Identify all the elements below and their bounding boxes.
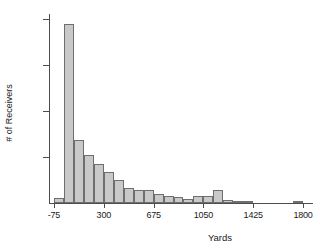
- histogram-bar: [183, 199, 193, 203]
- x-tick-mark: [154, 203, 155, 208]
- histogram-bar: [104, 172, 114, 203]
- x-tick-mark: [104, 203, 105, 208]
- histogram-bar: [64, 24, 74, 203]
- histogram-bar: [114, 180, 124, 203]
- histogram-bar: [144, 190, 154, 203]
- x-tick-mark: [253, 203, 254, 208]
- x-axis-line: [49, 203, 313, 204]
- x-tick-mark: [54, 203, 55, 208]
- histogram-figure: 50100150200 # of Receivers -753006751050…: [0, 0, 320, 252]
- x-tick-mark: [303, 203, 304, 208]
- x-axis-title: Yards: [0, 232, 320, 243]
- x-axis-title-text: Yards: [208, 232, 232, 243]
- histogram-bar: [154, 194, 164, 203]
- x-tick-label: 1050: [194, 210, 213, 220]
- histogram-bar: [84, 155, 94, 203]
- histogram-bar: [203, 196, 213, 203]
- x-tick-label: 1800: [293, 210, 312, 220]
- histogram-bar: [213, 190, 223, 203]
- x-tick-mark: [203, 203, 204, 208]
- x-tick-label: 300: [97, 210, 111, 220]
- plot-area: [49, 14, 313, 203]
- histogram-bar: [164, 196, 174, 203]
- x-tick-label: 675: [146, 210, 160, 220]
- histogram-bar: [54, 198, 64, 203]
- histogram-bar: [193, 196, 203, 203]
- x-tick-label: 1425: [244, 210, 263, 220]
- y-axis-title: # of Receivers: [4, 68, 14, 158]
- histogram-bar: [134, 190, 144, 203]
- histogram-bar: [293, 201, 303, 203]
- histogram-bar: [233, 201, 243, 203]
- histogram-bars: [49, 14, 313, 203]
- histogram-bar: [74, 140, 84, 203]
- histogram-bar: [124, 188, 134, 203]
- x-tick-label: -75: [48, 210, 60, 220]
- histogram-bar: [223, 200, 233, 203]
- histogram-bar: [174, 197, 184, 203]
- histogram-bar: [243, 201, 253, 203]
- histogram-bar: [94, 164, 104, 203]
